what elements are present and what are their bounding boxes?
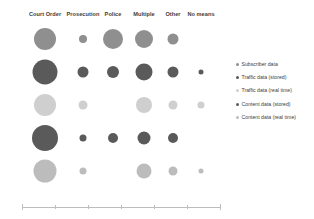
- legend-swatch-icon: [236, 76, 239, 79]
- axis-tick: [121, 205, 122, 209]
- axis-tick: [88, 205, 89, 209]
- legend-label: Traffic data (stored): [242, 75, 287, 80]
- bubble: [136, 64, 153, 81]
- bubble: [169, 167, 178, 176]
- axis-tick: [55, 205, 56, 209]
- legend-item[interactable]: Traffic data (real time): [236, 84, 314, 97]
- bubble: [32, 125, 58, 151]
- chart-legend: Subscriber dataTraffic data (stored)Traf…: [236, 58, 314, 124]
- column-header-other: Other: [165, 11, 180, 17]
- bubble-chart: Court OrderProsecutionPoliceMultipleOthe…: [0, 0, 314, 219]
- legend-swatch-icon: [236, 89, 239, 92]
- legend-item[interactable]: Content data (real time): [236, 111, 314, 124]
- legend-label: Content data (stored): [242, 102, 291, 107]
- axis-tick: [220, 204, 221, 210]
- legend-item[interactable]: Content data (stored): [236, 98, 314, 111]
- legend-swatch-icon: [236, 116, 239, 119]
- bottom-axis-line: [22, 207, 220, 208]
- bubble: [168, 133, 178, 143]
- legend-label: Content data (real time): [242, 115, 297, 120]
- column-header-multiple: Multiple: [133, 11, 155, 17]
- bubble: [135, 30, 153, 48]
- column-header-no-means: No means: [187, 11, 214, 17]
- legend-label: Traffic data (real time): [242, 88, 292, 93]
- bubble: [78, 67, 89, 78]
- bubble: [79, 101, 88, 110]
- column-header-court-order: Court Order: [29, 11, 61, 17]
- bubble: [137, 164, 152, 179]
- bubble: [80, 168, 87, 175]
- bubble: [199, 169, 204, 174]
- legend-swatch-icon: [236, 103, 239, 106]
- legend-swatch-icon: [236, 63, 239, 66]
- bubble: [169, 101, 178, 110]
- bubble: [168, 67, 179, 78]
- bubble: [138, 132, 151, 145]
- bubble: [34, 94, 56, 116]
- bubble: [103, 29, 123, 49]
- bubble: [107, 66, 119, 78]
- axis-tick: [22, 204, 23, 210]
- bubble: [79, 35, 87, 43]
- column-header-police: Police: [105, 11, 122, 17]
- legend-item[interactable]: Subscriber data: [236, 58, 314, 71]
- bubble: [199, 70, 204, 75]
- legend-item[interactable]: Traffic data (stored): [236, 71, 314, 84]
- bubble: [108, 133, 118, 143]
- axis-tick: [187, 205, 188, 209]
- bubble: [33, 60, 58, 85]
- axis-tick: [154, 205, 155, 209]
- legend-label: Subscriber data: [242, 62, 278, 67]
- bubble: [34, 28, 56, 50]
- bubble: [80, 135, 87, 142]
- bubble: [198, 102, 205, 109]
- bubble: [168, 34, 179, 45]
- column-header-prosecution: Prosecution: [67, 11, 100, 17]
- bubble: [136, 97, 152, 113]
- bubble: [34, 160, 57, 183]
